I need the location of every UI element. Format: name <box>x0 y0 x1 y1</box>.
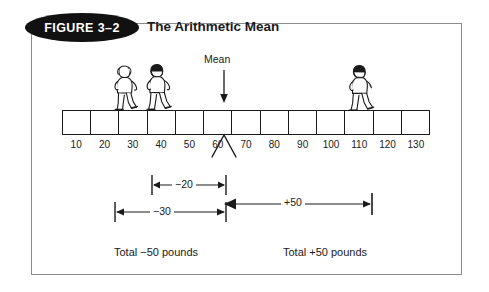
number-line-grid <box>62 110 430 135</box>
figure-badge-label: FIGURE 3–2 <box>44 21 120 35</box>
figure-3-2: FIGURE 3–2 The Arithmetic Mean Mean <box>0 0 489 292</box>
grid-cell <box>345 111 373 134</box>
tick-label: 100 <box>317 138 345 154</box>
total-positive-label: Total +50 pounds <box>283 246 367 258</box>
mean-label: Mean <box>204 53 230 65</box>
figure-title: The Arithmetic Mean <box>147 19 279 34</box>
tick-label: 30 <box>119 138 147 154</box>
grid-cell <box>402 111 429 134</box>
grid-cell <box>317 111 345 134</box>
mean-arrow-icon <box>219 70 229 104</box>
person-figure-right <box>347 62 381 112</box>
tick-label: 90 <box>289 138 317 154</box>
total-negative-label: Total −50 pounds <box>114 246 198 258</box>
tick-label: 70 <box>232 138 260 154</box>
grid-cell <box>232 111 260 134</box>
deviation-label-minus-20: −20 <box>172 178 196 190</box>
tick-label: 110 <box>345 138 373 154</box>
grid-cell <box>204 111 232 134</box>
person-figure-middle <box>144 61 180 112</box>
deviation-label-plus-50: +50 <box>281 196 305 208</box>
person-figure-left <box>113 62 147 112</box>
tick-label: 50 <box>175 138 203 154</box>
grid-cell <box>119 111 147 134</box>
tick-label: 120 <box>373 138 401 154</box>
tick-label: 40 <box>147 138 175 154</box>
tick-label: 80 <box>260 138 288 154</box>
number-line-tick-labels: 10 20 30 40 50 60 70 80 90 100 110 120 1… <box>62 138 430 154</box>
grid-cell <box>261 111 289 134</box>
deviation-label-minus-30: −30 <box>150 205 174 217</box>
tick-label: 60 <box>204 138 232 154</box>
grid-cell <box>176 111 204 134</box>
tick-label: 130 <box>402 138 430 154</box>
grid-cell <box>148 111 176 134</box>
grid-cell <box>289 111 317 134</box>
grid-cell <box>374 111 402 134</box>
tick-label: 20 <box>90 138 118 154</box>
tick-label: 10 <box>62 138 90 154</box>
grid-cell <box>91 111 119 134</box>
grid-cell <box>63 111 91 134</box>
figure-badge: FIGURE 3–2 <box>25 13 139 42</box>
